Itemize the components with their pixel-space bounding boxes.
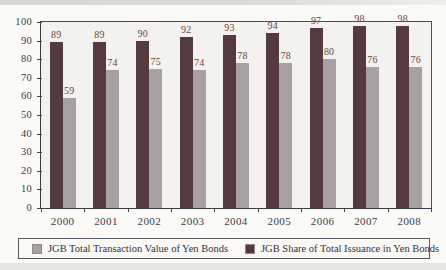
bar: 98: [396, 26, 409, 208]
bar-value-label: 90: [138, 28, 148, 39]
y-tick-label: 0: [2, 202, 32, 213]
x-axis-label: 2008: [388, 215, 431, 227]
chart-legend: JGB Total Transaction Value of Yen Bonds…: [18, 238, 430, 259]
y-tick-label: 30: [2, 146, 32, 157]
bar: 78: [236, 63, 249, 208]
bar-value-label: 75: [151, 56, 161, 67]
x-tick-mark: [258, 208, 259, 212]
bar-value-label: 76: [411, 54, 421, 65]
legend-label: JGB Total Transaction Value of Yen Bonds: [48, 243, 228, 254]
x-tick-mark: [84, 208, 85, 212]
bar: 98: [353, 26, 366, 208]
legend-swatch-icon: [32, 244, 42, 254]
bar-group-2001: 8974: [84, 22, 127, 208]
scan-edge-shade-bottom: [0, 263, 446, 270]
x-tick-mark: [431, 208, 432, 212]
bar-series-area: 895989749075927493789478978098769876: [41, 22, 431, 208]
scanned-chart-page: 0102030405060708090100 89598974907592749…: [0, 0, 446, 270]
bar-group-2005: 9478: [258, 22, 301, 208]
bar: 97: [310, 28, 323, 208]
bar-value-label: 93: [224, 22, 234, 33]
y-tick-label: 70: [2, 72, 32, 83]
bar: 89: [50, 42, 63, 208]
bar-value-label: 78: [237, 50, 247, 61]
bar-value-label: 76: [367, 54, 377, 65]
bar-value-label: 97: [311, 15, 321, 26]
bar-value-label: 89: [94, 29, 104, 40]
x-axis-label: 2004: [214, 215, 257, 227]
legend-swatch-icon: [245, 244, 255, 254]
legend-item: JGB Share of Total Issuance in Yen Bonds: [245, 243, 439, 254]
scan-edge-shade-top: [0, 0, 446, 5]
bar-value-label: 78: [281, 50, 291, 61]
legend-item: JGB Total Transaction Value of Yen Bonds: [32, 243, 228, 254]
bar-value-label: 98: [398, 13, 408, 24]
x-tick-mark: [128, 208, 129, 212]
bar: 74: [106, 70, 119, 208]
bar-group-2000: 8959: [41, 22, 84, 208]
y-tick-label: 80: [2, 53, 32, 64]
bar-group-2002: 9075: [128, 22, 171, 208]
x-tick-mark: [41, 208, 42, 212]
x-tick-mark: [214, 208, 215, 212]
bar-value-label: 98: [354, 13, 364, 24]
bar: 80: [323, 59, 336, 208]
bar: 92: [180, 37, 193, 208]
x-axis-label: 2003: [171, 215, 214, 227]
x-axis-label: 2007: [344, 215, 387, 227]
x-tick-mark: [344, 208, 345, 212]
bar-group-2007: 9876: [344, 22, 387, 208]
bar: 89: [93, 42, 106, 208]
bar-group-2006: 9780: [301, 22, 344, 208]
y-tick-label: 60: [2, 90, 32, 101]
bar-value-label: 92: [181, 24, 191, 35]
bar: 59: [63, 98, 76, 208]
legend-label: JGB Share of Total Issuance in Yen Bonds: [261, 243, 439, 254]
x-axis-label: 2002: [128, 215, 171, 227]
x-tick-mark: [388, 208, 389, 212]
bar: 76: [409, 67, 422, 208]
bar: 78: [279, 63, 292, 208]
y-tick-label: 10: [2, 183, 32, 194]
bar-value-label: 94: [268, 20, 278, 31]
y-tick-label: 100: [2, 16, 32, 27]
bar-value-label: 74: [194, 57, 204, 68]
bar-value-label: 89: [51, 29, 61, 40]
y-tick-label: 20: [2, 165, 32, 176]
bar: 90: [136, 41, 149, 208]
y-tick-label: 50: [2, 109, 32, 120]
bar: 74: [193, 70, 206, 208]
y-tick-label: 40: [2, 128, 32, 139]
bar-group-2008: 9876: [388, 22, 431, 208]
bar: 93: [223, 35, 236, 208]
x-axis-label: 2000: [41, 215, 84, 227]
bar: 75: [149, 69, 162, 209]
bar: 94: [266, 33, 279, 208]
bar-value-label: 80: [324, 46, 334, 57]
x-axis-label: 2006: [301, 215, 344, 227]
chart-plot-area: 0102030405060708090100 89598974907592749…: [40, 21, 432, 209]
y-tick-label: 90: [2, 35, 32, 46]
bar-group-2003: 9274: [171, 22, 214, 208]
x-axis-label: 2001: [84, 215, 127, 227]
x-axis-labels: 200020012002200320042005200620072008: [41, 215, 431, 227]
bar-value-label: 74: [107, 57, 117, 68]
x-tick-mark: [301, 208, 302, 212]
bar-value-label: 59: [64, 85, 74, 96]
x-axis-label: 2005: [258, 215, 301, 227]
bar: 76: [366, 67, 379, 208]
x-tick-mark: [171, 208, 172, 212]
bar-group-2004: 9378: [214, 22, 257, 208]
